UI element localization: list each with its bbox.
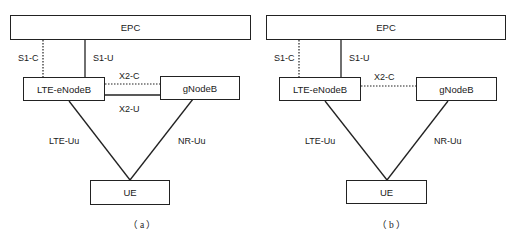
epc-node: EPC (266, 15, 506, 40)
epc-node: EPC (10, 15, 251, 40)
ue-node: UE (90, 180, 170, 205)
nr-uu-label: NR-Uu (434, 136, 462, 146)
gnodeb-label: gNodeB (439, 84, 473, 95)
gnodeb-node: gNodeB (160, 76, 240, 100)
panel-b: EPC LTE-eNodeB gNodeB UE S1-C S1-U X2-C … (257, 0, 514, 238)
s1u-label: S1-U (349, 53, 370, 63)
lte-uu-label: LTE-Uu (49, 136, 79, 146)
x2c-label: X2-C (119, 71, 140, 81)
lte-enodeb-node: LTE-eNodeB (23, 77, 105, 101)
lte-enodeb-node: LTE-eNodeB (279, 77, 361, 101)
gnodeb-label: gNodeB (183, 83, 217, 94)
lte-enodeb-label: LTE-eNodeB (37, 84, 91, 95)
epc-label: EPC (121, 22, 141, 33)
nr-uu-label: NR-Uu (178, 136, 206, 146)
s1u-label: S1-U (93, 53, 114, 63)
ue-label: UE (123, 187, 136, 198)
lte-enodeb-label: LTE-eNodeB (293, 84, 347, 95)
s1c-label: S1-C (18, 53, 39, 63)
x2u-label: X2-U (119, 104, 140, 114)
caption-a: （a） (128, 217, 158, 231)
caption-b: （b） (377, 217, 408, 231)
s1c-label: S1-C (274, 53, 295, 63)
panel-a: EPC LTE-eNodeB gNodeB UE S1-C S1-U X2-C … (0, 0, 257, 238)
ue-label: UE (380, 187, 393, 198)
lte-uu-label: LTE-Uu (305, 136, 335, 146)
x2c-label: X2-C (374, 72, 395, 82)
ue-node: UE (346, 180, 427, 204)
epc-label: EPC (376, 22, 396, 33)
gnodeb-node: gNodeB (416, 77, 497, 101)
